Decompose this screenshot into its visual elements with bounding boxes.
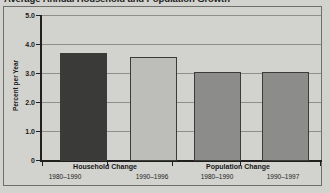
x-group-label-population: Population Change [193, 163, 283, 171]
x-group-label-household: Household Change [60, 163, 150, 171]
x-tick-mark-4 [320, 162, 321, 166]
y-tick-label-4: 4.0 [5, 41, 35, 48]
x-tick-mark-0 [42, 162, 43, 166]
x-year-label-2: 1980–1990 [192, 173, 242, 181]
chart-title: Average Annual Household and Population … [4, 0, 230, 4]
bar-household-1980-1990[interactable] [60, 53, 107, 161]
bar-household-1990-1996[interactable] [130, 57, 177, 161]
y-tick-label-0: 0 [5, 157, 35, 164]
y-axis-tick-labels: 5.0 4.0 3.0 2.0 1.0 0 [2, 0, 35, 193]
y-axis-title: Percent per Year [12, 50, 19, 122]
y-tick-label-1: 1.0 [5, 128, 35, 135]
bar-population-1980-1990[interactable] [194, 72, 241, 161]
bar-population-1990-1997[interactable] [262, 72, 309, 161]
y-tick-label-2: 2.0 [5, 99, 35, 106]
x-year-label-3: 1990–1997 [258, 173, 308, 181]
bar-series [42, 15, 321, 161]
y-tick-label-3: 3.0 [5, 70, 35, 77]
x-year-label-0: 1980–1990 [40, 173, 90, 181]
x-tick-mark-2 [172, 162, 173, 166]
x-year-label-1: 1990–1996 [127, 173, 177, 181]
y-tick-label-5: 5.0 [5, 12, 35, 19]
